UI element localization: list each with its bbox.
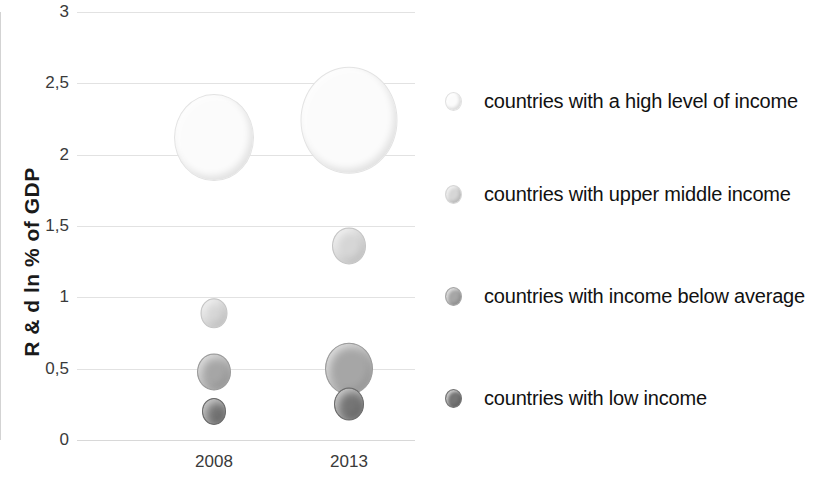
legend-marker-icon — [445, 185, 462, 204]
legend-label: countries with a high level of income — [484, 90, 798, 113]
legend-marker-icon — [445, 92, 462, 111]
bubble-point — [174, 94, 254, 182]
bubble-point — [197, 353, 231, 390]
bubble-point — [201, 298, 228, 328]
legend-item[interactable]: countries with a high level of income — [440, 88, 798, 114]
legend-item[interactable]: countries with upper middle income — [440, 181, 791, 207]
bubble-point — [301, 67, 398, 174]
legend-marker-icon — [445, 389, 462, 408]
legend-label: countries with income below average — [484, 285, 805, 308]
x-tick-label: 2008 — [169, 452, 259, 472]
legend-label: countries with low income — [484, 387, 707, 410]
legend-label: countries with upper middle income — [484, 183, 791, 206]
bubble-point — [202, 398, 226, 424]
legend-item[interactable]: countries with income below average — [440, 283, 805, 309]
bubble-point — [332, 227, 366, 264]
legend-item[interactable]: countries with low income — [440, 385, 707, 411]
bubble-chart: R & d ln % of GDP 32,521,510,50 20082013… — [0, 0, 832, 481]
chart-legend: countries with a high level of incomecou… — [440, 0, 832, 481]
legend-marker-icon — [445, 287, 462, 306]
x-tick-label: 2013 — [304, 452, 394, 472]
bubble-point — [334, 388, 364, 421]
